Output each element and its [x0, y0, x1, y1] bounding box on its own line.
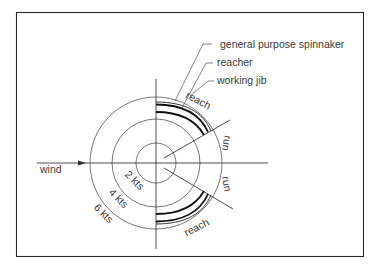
top-run-label: run [220, 135, 234, 152]
bottom-run-label: run [220, 175, 234, 192]
legend-spinnaker-label: general purpose spinnaker [220, 38, 345, 50]
jib-curve-top [156, 112, 204, 135]
sailing-polar-diagram: general purpose spinnaker reacher workin… [0, 0, 374, 270]
jib-curve-bottom [156, 191, 204, 214]
ring-label-2kts: 2 kts [123, 168, 147, 192]
wind-arrow-icon [78, 161, 86, 166]
legend-jib-label: working jib [216, 74, 267, 86]
wind-label: wind [39, 163, 62, 175]
legend-reacher-label: reacher [217, 56, 253, 68]
ring-label-6kts: 6 kts [92, 201, 116, 225]
ring-label-4kts: 4 kts [107, 186, 131, 210]
